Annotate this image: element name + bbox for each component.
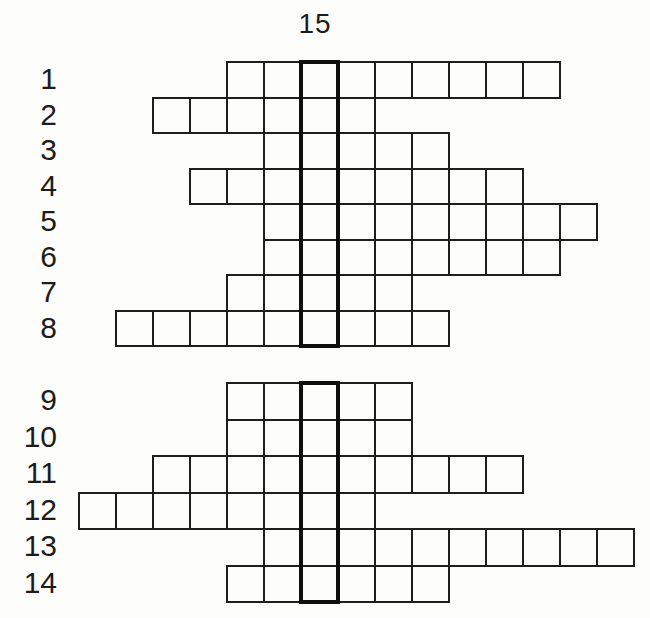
grid-cell[interactable]	[374, 419, 413, 458]
grid-cell-column-15[interactable]	[300, 492, 339, 531]
grid-cell[interactable]	[337, 239, 376, 277]
grid-cell[interactable]	[411, 61, 450, 99]
grid-cell[interactable]	[522, 203, 561, 241]
grid-cell-column-15[interactable]	[300, 528, 339, 567]
grid-cell[interactable]	[226, 565, 265, 604]
grid-cell[interactable]	[337, 492, 376, 531]
grid-cell[interactable]	[263, 274, 302, 312]
grid-cell[interactable]	[448, 239, 487, 277]
grid-cell[interactable]	[263, 310, 302, 348]
grid-cell[interactable]	[522, 528, 561, 567]
grid-cell[interactable]	[189, 455, 228, 494]
grid-cell[interactable]	[448, 528, 487, 567]
grid-cell[interactable]	[411, 310, 450, 348]
grid-cell[interactable]	[337, 132, 376, 170]
grid-cell[interactable]	[263, 419, 302, 458]
grid-cell[interactable]	[485, 528, 524, 567]
grid-cell[interactable]	[226, 61, 265, 99]
grid-cell-column-15[interactable]	[300, 168, 339, 206]
grid-cell[interactable]	[226, 382, 265, 421]
grid-cell[interactable]	[596, 528, 635, 567]
grid-cell[interactable]	[485, 203, 524, 241]
grid-cell[interactable]	[115, 492, 154, 531]
grid-cell[interactable]	[374, 528, 413, 567]
grid-cell[interactable]	[374, 382, 413, 421]
grid-cell[interactable]	[226, 455, 265, 494]
grid-cell[interactable]	[374, 61, 413, 99]
grid-cell[interactable]	[522, 239, 561, 277]
grid-cell[interactable]	[263, 565, 302, 604]
grid-cell[interactable]	[337, 97, 376, 135]
grid-cell[interactable]	[374, 168, 413, 206]
grid-cell[interactable]	[152, 455, 191, 494]
grid-cell[interactable]	[448, 203, 487, 241]
grid-cell[interactable]	[152, 310, 191, 348]
grid-cell[interactable]	[152, 492, 191, 531]
grid-cell[interactable]	[226, 97, 265, 135]
grid-cell[interactable]	[374, 310, 413, 348]
grid-cell[interactable]	[337, 203, 376, 241]
grid-cell[interactable]	[522, 61, 561, 99]
grid-cell[interactable]	[189, 97, 228, 135]
grid-cell[interactable]	[189, 310, 228, 348]
grid-cell[interactable]	[263, 132, 302, 170]
grid-cell-column-15[interactable]	[300, 565, 339, 604]
grid-cell-column-15[interactable]	[300, 419, 339, 458]
grid-cell-column-15[interactable]	[300, 274, 339, 312]
grid-cell[interactable]	[189, 168, 228, 206]
grid-cell[interactable]	[411, 239, 450, 277]
grid-cell[interactable]	[226, 419, 265, 458]
grid-cell[interactable]	[337, 419, 376, 458]
grid-cell[interactable]	[337, 455, 376, 494]
grid-cell[interactable]	[263, 61, 302, 99]
grid-cell[interactable]	[374, 132, 413, 170]
grid-cell[interactable]	[559, 528, 598, 567]
grid-cell[interactable]	[152, 97, 191, 135]
grid-cell[interactable]	[263, 455, 302, 494]
grid-cell[interactable]	[263, 528, 302, 567]
grid-cell[interactable]	[485, 168, 524, 206]
grid-cell[interactable]	[374, 203, 413, 241]
grid-cell[interactable]	[337, 382, 376, 421]
grid-cell[interactable]	[337, 310, 376, 348]
grid-cell[interactable]	[263, 382, 302, 421]
grid-cell[interactable]	[411, 132, 450, 170]
grid-cell[interactable]	[411, 203, 450, 241]
grid-cell-column-15[interactable]	[300, 203, 339, 241]
grid-cell[interactable]	[374, 565, 413, 604]
grid-cell[interactable]	[448, 168, 487, 206]
grid-cell-column-15[interactable]	[300, 310, 339, 348]
grid-cell[interactable]	[411, 168, 450, 206]
grid-cell-column-15[interactable]	[300, 382, 339, 421]
grid-cell[interactable]	[226, 274, 265, 312]
grid-cell-column-15[interactable]	[300, 61, 339, 99]
grid-cell[interactable]	[411, 455, 450, 494]
grid-cell[interactable]	[411, 565, 450, 604]
grid-cell[interactable]	[559, 203, 598, 241]
grid-cell[interactable]	[189, 492, 228, 531]
grid-cell[interactable]	[411, 528, 450, 567]
grid-cell[interactable]	[337, 528, 376, 567]
grid-cell[interactable]	[226, 310, 265, 348]
grid-cell[interactable]	[263, 97, 302, 135]
grid-cell[interactable]	[263, 492, 302, 531]
grid-cell-column-15[interactable]	[300, 239, 339, 277]
grid-cell-column-15[interactable]	[300, 455, 339, 494]
grid-cell[interactable]	[115, 310, 154, 348]
grid-cell[interactable]	[374, 274, 413, 312]
grid-cell-column-15[interactable]	[300, 97, 339, 135]
grid-cell[interactable]	[485, 61, 524, 99]
grid-cell-column-15[interactable]	[300, 132, 339, 170]
grid-cell[interactable]	[263, 203, 302, 241]
grid-cell[interactable]	[263, 168, 302, 206]
grid-cell[interactable]	[337, 274, 376, 312]
grid-cell[interactable]	[374, 455, 413, 494]
grid-cell[interactable]	[78, 492, 117, 531]
grid-cell[interactable]	[448, 61, 487, 99]
grid-cell[interactable]	[226, 168, 265, 206]
grid-cell[interactable]	[337, 61, 376, 99]
grid-cell[interactable]	[448, 455, 487, 494]
grid-cell[interactable]	[337, 565, 376, 604]
grid-cell[interactable]	[263, 239, 302, 277]
grid-cell[interactable]	[337, 168, 376, 206]
